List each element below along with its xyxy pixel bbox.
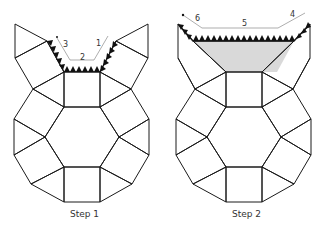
step-2-figure: 6 5 4 Step 2	[176, 10, 311, 219]
shaded-face	[193, 41, 294, 72]
dimension-label-2: 2	[80, 53, 85, 62]
step-2-caption: Step 2	[232, 209, 261, 219]
dimension-label-6: 6	[195, 14, 200, 23]
dimension-label-1: 1	[96, 39, 101, 48]
dimension-label-5: 5	[242, 19, 247, 28]
dimension-label-3: 3	[63, 40, 68, 49]
step-1-caption: Step 1	[70, 209, 99, 219]
step-1-figure: 3 2 1 Step 1	[14, 24, 149, 219]
dimension-label-4: 4	[290, 10, 295, 19]
